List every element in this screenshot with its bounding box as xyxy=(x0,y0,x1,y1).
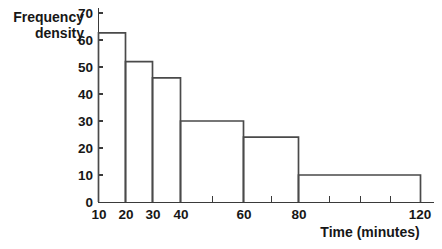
y-axis-label-line1: Frequency xyxy=(13,9,84,25)
y-tick-label-60: 60 xyxy=(78,33,93,48)
x-tick-label-80: 80 xyxy=(291,207,306,222)
x-tick-label-10: 10 xyxy=(91,207,106,222)
y-tick-label-50: 50 xyxy=(78,60,93,75)
x-tick-label-20: 20 xyxy=(118,207,133,222)
histogram-figure: Frequency density 70 60 50 40 30 20 10 0 xyxy=(0,0,442,249)
bar-80-120 xyxy=(299,175,421,202)
x-tick-label-40: 40 xyxy=(173,207,188,222)
bar-10-20 xyxy=(99,33,126,202)
y-tick-label-70: 70 xyxy=(78,6,93,21)
x-tick-label-30: 30 xyxy=(145,207,160,222)
bar-20-30 xyxy=(126,62,153,202)
x-tick-label-60: 60 xyxy=(236,207,251,222)
x-axis-label: Time (minutes) xyxy=(320,224,419,240)
y-tick-label-10: 10 xyxy=(78,168,93,183)
y-tick-label-30: 30 xyxy=(78,114,93,129)
bar-30-40 xyxy=(153,78,181,202)
frequency-density-histogram: Frequency density 70 60 50 40 30 20 10 0 xyxy=(0,0,442,249)
bar-60-80 xyxy=(244,137,299,202)
bar-40-60 xyxy=(181,121,244,202)
y-tick-label-20: 20 xyxy=(78,141,93,156)
y-axis-label-line2: density xyxy=(35,25,84,41)
x-tick-label-120: 120 xyxy=(409,207,432,222)
y-tick-label-40: 40 xyxy=(78,87,93,102)
